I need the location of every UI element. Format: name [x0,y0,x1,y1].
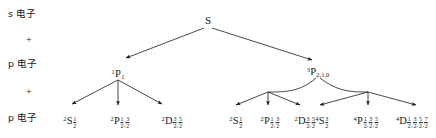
term-symbol-splitting-diagram: s 电子 + p 电子 + p 电子 S 1P1 3P2,1,0 2S12 2P… [0,0,436,138]
term-j-values: 12,32,52 [363,115,379,126]
term-letter: D [399,115,407,126]
node-doublet-s-half: 2S12 [63,111,76,129]
node-root-term: S [205,15,211,26]
term-j-values: 12,32,52,72 [407,115,428,126]
edge-leftjunction-to-2d [268,92,300,105]
node-doublet-d-3half-5half-b: 2D32,52 [295,111,316,129]
node-quartet-p-half-3half-5half: 4P12,32,52 [354,111,379,129]
node-triplet-p210: 3P2,1,0 [307,62,330,79]
term-letter: D [165,115,173,126]
node-quartet-d-half-3half-5half-7half: 4D12,32,52,72 [396,111,428,129]
side-label-plus-2: + [26,87,32,97]
node-doublet-s-half-b: 2S12 [229,111,242,129]
term-j-values: 12,32 [120,115,130,126]
edge-rightjunction-to-4s [320,92,368,105]
edge-root-to-singlet-p [126,28,204,58]
side-label-p-electron-1: p 电子 [8,59,37,69]
term-j-values: 1 [121,73,124,80]
term-j-values: 12 [239,115,243,126]
edge-tripletp-to-right-junction [320,78,368,92]
side-label-p-electron-2: p 电子 [8,113,37,123]
edge-rightjunction-to-4d [368,92,416,105]
node-doublet-p-half-3half: 2P12,32 [110,111,129,129]
node-singlet-p1: 1P1 [112,64,125,81]
term-j-values: 32 [325,115,329,126]
edge-singletp-to-2s [72,80,118,104]
edge-tripletp-to-left-junction [268,78,316,92]
term-letter: P [310,66,316,77]
term-j-values: 32,52 [306,115,316,126]
node-doublet-p-half-3half-b: 2P12,32 [260,111,279,129]
term-j-values: 12 [73,115,77,126]
term-j-values: 2,1,0 [316,71,329,78]
edge-singletp-to-2d [118,80,162,104]
term-letter: P [115,68,121,79]
term-j-values: 32,52 [173,115,183,126]
edge-leftjunction-to-2s [236,92,268,105]
side-label-s-electron: s 电子 [8,9,36,19]
edge-root-to-triplet-p [212,28,312,60]
term-j-values: 12,32 [270,115,280,126]
node-doublet-d-3half-5half: 2D32,52 [162,111,183,129]
node-quartet-s-3half: 4S32 [315,111,328,129]
term-letter: D [298,115,306,126]
side-label-plus-1: + [26,35,32,45]
